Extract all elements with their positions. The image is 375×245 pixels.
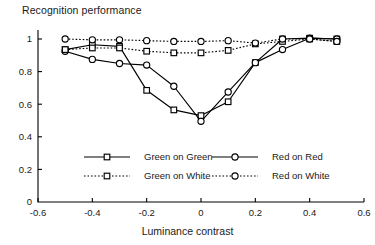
legend-label: Red on Red [272, 151, 323, 162]
data-point-circle [279, 46, 285, 52]
data-point-circle [89, 56, 95, 62]
legend-item-red-on-white[interactable]: Red on White [212, 170, 330, 181]
legend-label: Red on White [272, 170, 330, 181]
x-tick-label: -0.6 [30, 207, 46, 218]
y-tick-label: 0.6 [19, 99, 32, 110]
data-series-group [62, 35, 340, 124]
legend-marker-circle [232, 173, 238, 179]
data-point-circle [198, 38, 204, 44]
x-tick-label: 0.4 [303, 207, 316, 218]
data-point-square [62, 47, 68, 53]
x-tick-label: -0.2 [138, 207, 154, 218]
data-point-square [144, 48, 150, 54]
data-point-circle [252, 60, 258, 66]
data-point-circle [334, 38, 340, 44]
legend-label: Green on Green [144, 151, 213, 162]
data-point-circle [171, 83, 177, 89]
data-point-square [90, 45, 96, 51]
y-tick-label: 0.8 [19, 66, 32, 77]
data-point-circle [89, 37, 95, 43]
data-point-square [117, 45, 123, 51]
chart-figure: Recognition performance -0.6-0.4-0.200.2… [0, 0, 375, 245]
data-point-square [225, 99, 231, 105]
y-tick-label: 0 [27, 196, 32, 207]
legend-item-green-on-white[interactable]: Green on White [84, 170, 211, 181]
x-axis-label: Luminance contrast [0, 225, 375, 237]
data-point-circle [198, 118, 204, 124]
y-tick-label: 0.4 [19, 131, 32, 142]
data-point-square [225, 48, 231, 54]
chart-legend: Green on GreenRed on RedGreen on WhiteRe… [84, 151, 330, 181]
data-point-square [198, 113, 204, 119]
legend-item-red-on-red[interactable]: Red on Red [212, 151, 323, 162]
data-point-square [198, 50, 204, 56]
data-point-circle [225, 89, 231, 95]
x-tick-label: 0.2 [249, 207, 262, 218]
data-point-circle [225, 38, 231, 44]
y-tick-label: 0.2 [19, 164, 32, 175]
legend-marker-circle [232, 154, 238, 160]
data-point-square [171, 50, 177, 56]
data-point-circle [252, 40, 258, 46]
plot-area: -0.6-0.4-0.200.20.40.6 00.20.40.60.81 Gr… [0, 0, 375, 245]
legend-label: Green on White [144, 170, 211, 181]
data-point-circle [116, 60, 122, 66]
data-point-circle [171, 38, 177, 44]
data-point-circle [144, 62, 150, 68]
series-red-on-white [62, 36, 340, 46]
legend-item-green-on-green[interactable]: Green on Green [84, 151, 213, 162]
x-tick-label: 0.6 [357, 207, 370, 218]
y-tick-label: 1 [27, 33, 32, 44]
data-point-circle [116, 37, 122, 43]
x-axis-ticks: -0.6-0.4-0.200.20.40.6 [30, 198, 371, 218]
data-point-circle [62, 36, 68, 42]
legend-marker-square [104, 173, 110, 179]
data-point-square [144, 88, 150, 94]
legend-marker-square [104, 154, 110, 160]
data-point-circle [144, 38, 150, 44]
x-tick-label: -0.4 [84, 207, 100, 218]
data-point-circle [307, 36, 313, 42]
x-tick-label: 0 [198, 207, 203, 218]
data-point-circle [279, 36, 285, 42]
data-point-square [171, 107, 177, 113]
